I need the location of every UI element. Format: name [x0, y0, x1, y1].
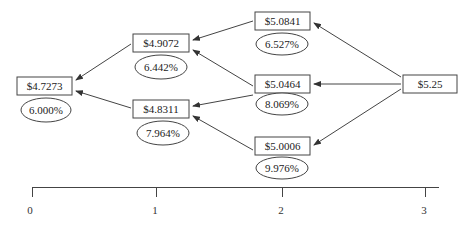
rate-label: 7.964% [146, 127, 180, 139]
arrow-n1u-to-n0 [76, 44, 131, 80]
binomial-tree-diagram: $4.7273 6.000% $4.9072 6.442% $4.8311 7.… [0, 0, 473, 229]
arrow-n2ud-to-n1d [193, 95, 253, 106]
arrow-n1d-to-n0 [76, 91, 131, 108]
edges [76, 21, 401, 150]
rate-label: 8.069% [265, 98, 299, 110]
price-label: $5.0841 [265, 15, 301, 27]
rate-label: 6.442% [144, 61, 178, 73]
rate-label: 6.527% [265, 38, 299, 50]
price-label: $4.9072 [143, 37, 179, 49]
axis-label-2: 2 [278, 204, 284, 216]
axis-label-1: 1 [152, 204, 158, 216]
axis-label-3: 3 [421, 204, 427, 216]
node-period-3: $5.25 [403, 75, 457, 93]
node-period-2-updown: $5.0464 8.069% [255, 75, 310, 115]
node-period-1-down: $4.8311 7.964% [133, 100, 189, 145]
axis-labels: 0 1 2 3 [27, 204, 427, 216]
arrow-n2dd-to-n1d [193, 116, 253, 150]
node-period-1-up: $4.9072 6.442% [133, 34, 189, 79]
arrow-n3-to-n2uu [314, 23, 401, 77]
price-label: $5.25 [418, 78, 443, 90]
axis-label-0: 0 [27, 204, 33, 216]
node-period-2-upup: $5.0841 6.527% [255, 12, 310, 55]
arrow-n3-to-n2dd [314, 89, 401, 145]
node-period-2-downdown: $5.0006 9.976% [255, 137, 310, 179]
rate-label: 9.976% [265, 162, 299, 174]
rate-label: 6.000% [29, 104, 63, 116]
price-label: $5.0464 [265, 78, 301, 90]
price-label: $4.8311 [143, 103, 178, 115]
arrow-n2uu-to-n1u [193, 21, 253, 40]
price-label: $4.7273 [27, 80, 63, 92]
node-period-0: $4.7273 6.000% [17, 77, 72, 122]
time-axis [32, 187, 439, 197]
price-label: $5.0006 [265, 140, 301, 152]
arrow-n2ud-to-n1u [193, 50, 253, 86]
